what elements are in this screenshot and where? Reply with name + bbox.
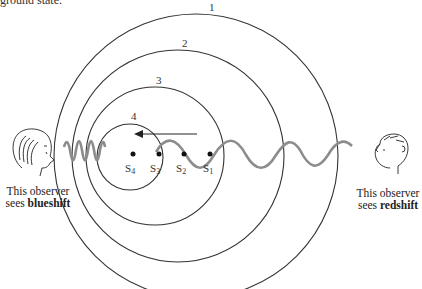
compressed-wave — [64, 141, 105, 161]
left-caption-line1: This observer — [2, 185, 74, 197]
redshift-label: redshift — [380, 199, 418, 211]
source-label-s2: S2 — [176, 162, 186, 176]
wavefront-2 — [72, 50, 284, 262]
source-dot-s4 — [131, 152, 136, 157]
blueshift-label: blueshift — [28, 197, 71, 209]
source-dot-s1 — [208, 152, 213, 157]
wavefront-label-2: 2 — [182, 37, 188, 49]
right-observer-head-icon — [375, 134, 408, 174]
wavefront-1 — [54, 14, 338, 289]
wavefront-3 — [86, 87, 224, 225]
source-label-s3: S3 — [150, 162, 160, 176]
arrowhead-icon — [134, 130, 143, 138]
source-dot-s2 — [182, 152, 187, 157]
left-observer-head-icon — [13, 129, 54, 176]
wavefront-label-3: 3 — [156, 74, 162, 86]
wavefront-label-4: 4 — [131, 110, 137, 122]
wavefront-label-1: 1 — [209, 1, 215, 13]
left-caption-line2: sees blueshift — [2, 197, 74, 209]
right-caption-line1: This observer — [352, 187, 422, 199]
doppler-diagram: 1 2 3 4 S4 S3 S2 S1 — [0, 0, 422, 289]
left-observer-caption: This observer sees blueshift — [2, 185, 74, 209]
right-observer-caption: This observer sees redshift — [352, 187, 422, 211]
source-label-s1: S1 — [203, 162, 213, 176]
source-dot-s3 — [157, 152, 162, 157]
source-label-s4: S4 — [125, 162, 135, 176]
right-caption-line2: sees redshift — [352, 199, 422, 211]
